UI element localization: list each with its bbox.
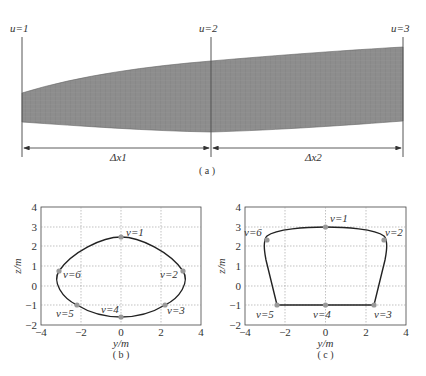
- point-label-v5: v=5: [256, 308, 274, 320]
- y-ticks-c: −2 −1 0 1 2 3 4: [229, 201, 241, 331]
- caption-a: ( a ): [199, 165, 215, 177]
- y-ticks-b: −2 −1 0 1 2 3 4: [25, 201, 37, 331]
- svg-text:4: 4: [236, 201, 242, 213]
- svg-text:2: 2: [236, 240, 242, 252]
- figure: u=1 u=2 u=3 Δx1 Δx2 ( a ) v: [0, 0, 426, 376]
- svg-text:2: 2: [363, 326, 369, 338]
- point-label-v1: v=1: [126, 226, 144, 238]
- svg-text:2: 2: [158, 326, 164, 338]
- svg-text:3: 3: [32, 221, 38, 233]
- point-label-v6: v=6: [244, 226, 262, 238]
- svg-text:4: 4: [32, 201, 38, 213]
- label-dx1: Δx1: [109, 151, 127, 163]
- svg-text:4: 4: [198, 326, 204, 338]
- caption-b: ( b ): [113, 349, 130, 361]
- panel-b-chart: v=1 v=2 v=3 v=4 v=5 v=6 −4 −2 0 2 4 −2 −…: [11, 201, 204, 361]
- label-u1: u=1: [10, 22, 28, 34]
- svg-text:−2: −2: [75, 326, 87, 338]
- x-axis-label-c: y/m: [317, 337, 334, 349]
- svg-text:1: 1: [236, 260, 242, 272]
- svg-text:−1: −1: [229, 299, 241, 311]
- svg-text:−2: −2: [279, 326, 291, 338]
- point-label-v2: v=2: [160, 268, 178, 280]
- label-dx2: Δx2: [304, 151, 322, 163]
- point-label-v5: v=5: [56, 307, 74, 319]
- svg-text:−1: −1: [25, 299, 37, 311]
- panel-c-chart: v=1 v=2 v=3 v=4 v=5 v=6 −4 −2 0 2 4 −2 −…: [215, 201, 409, 361]
- lofted-surface: [22, 47, 403, 132]
- label-u2: u=2: [199, 22, 218, 34]
- svg-text:3: 3: [236, 221, 242, 233]
- point-label-v6: v=6: [63, 268, 81, 280]
- x-axis-label-b: y/m: [112, 337, 129, 349]
- svg-text:−2: −2: [25, 319, 37, 331]
- point-label-v2: v=2: [385, 226, 403, 238]
- svg-text:2: 2: [32, 240, 38, 252]
- label-u3: u=3: [391, 22, 410, 34]
- y-axis-label-b: z/m: [11, 258, 23, 274]
- svg-text:−2: −2: [229, 319, 241, 331]
- point-label-v4: v=4: [313, 308, 331, 320]
- point-label-v4: v=4: [101, 303, 119, 315]
- point-label-v3: v=3: [167, 304, 185, 316]
- panel-a-fuselage: u=1 u=2 u=3 Δx1 Δx2 ( a ): [10, 22, 410, 177]
- svg-text:4: 4: [403, 326, 409, 338]
- point-label-v1: v=1: [330, 212, 348, 224]
- svg-text:0: 0: [32, 280, 38, 292]
- svg-text:0: 0: [236, 280, 242, 292]
- point-label-v3: v=3: [374, 308, 392, 320]
- svg-text:1: 1: [32, 260, 38, 272]
- caption-c: ( c ): [317, 349, 333, 361]
- y-axis-label-c: z/m: [215, 258, 227, 274]
